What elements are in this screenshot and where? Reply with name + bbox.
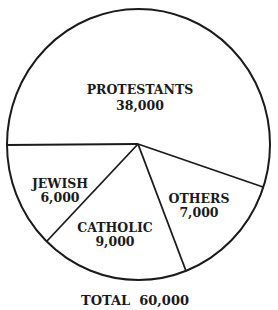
pie-chart: PROTESTANTS 38,000 OTHERS 7,000 CATHOLIC… (0, 0, 278, 310)
total-label: TOTAL 60,000 (81, 293, 189, 308)
slice-label-jewish: JEWISH (31, 176, 88, 191)
slice-value-others: 7,000 (179, 205, 218, 220)
slice-label-protestants: PROTESTANTS (87, 82, 194, 97)
slice-value-protestants: 38,000 (116, 98, 164, 113)
slice-label-catholic: CATHOLIC (77, 220, 153, 235)
divider-jewish-protestants (7, 144, 138, 145)
slice-value-catholic: 9,000 (95, 234, 134, 249)
slice-value-jewish: 6,000 (40, 190, 79, 205)
slice-label-others: OTHERS (169, 191, 230, 206)
